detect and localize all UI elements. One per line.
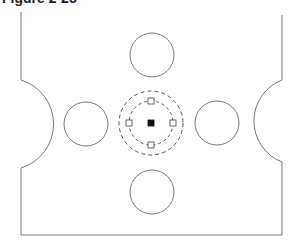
outline-left-edge	[21, 12, 54, 235]
hole-left[interactable]	[64, 102, 108, 146]
grip-center-icon[interactable]	[148, 120, 154, 126]
hole-top[interactable]	[130, 33, 174, 77]
cad-drawing	[0, 0, 298, 249]
outline-right-edge	[254, 15, 282, 235]
grip-west-icon[interactable]	[126, 120, 132, 126]
grip-north-icon[interactable]	[148, 98, 154, 104]
grip-east-icon[interactable]	[170, 120, 176, 126]
hole-right[interactable]	[195, 101, 239, 145]
hole-bottom[interactable]	[130, 170, 174, 214]
grip-south-icon[interactable]	[148, 142, 154, 148]
